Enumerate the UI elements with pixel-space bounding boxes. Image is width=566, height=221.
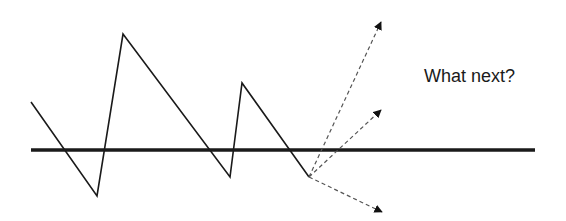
diagram-svg <box>0 0 566 221</box>
what-next-label: What next? <box>424 66 515 87</box>
zigzag-price-path <box>31 34 309 196</box>
projection-arrow-down <box>309 177 382 212</box>
projection-arrow-up-strong <box>309 22 381 177</box>
projection-arrows <box>309 22 382 212</box>
diagram-canvas: What next? <box>0 0 566 221</box>
projection-arrow-up-moderate <box>309 110 381 177</box>
